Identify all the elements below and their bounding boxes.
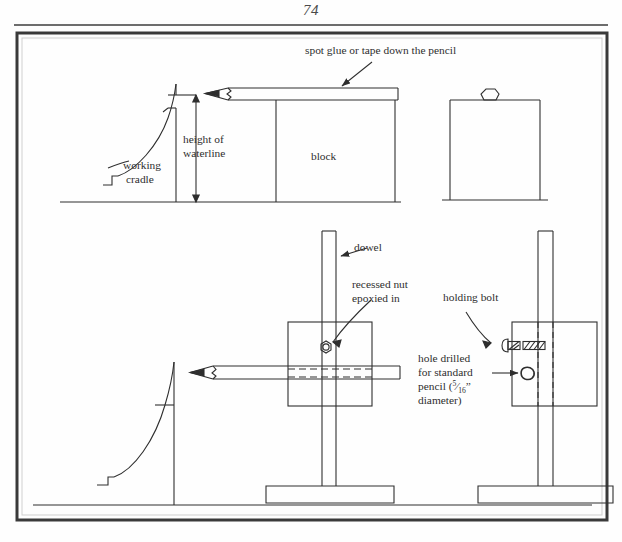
bottom-cradle-curve [114,362,174,477]
hole-drilled-prefix: pencil ( [418,380,453,393]
bottom-cradle-foot [97,477,114,485]
bottom-side-elevation [33,362,592,505]
label-hole-drilled-2: for standard [418,366,473,378]
label-height-of-waterline-1: height of [183,133,224,145]
right-assembly [466,231,613,503]
pencil-hole-circle [521,367,534,379]
figure-frame [17,33,607,520]
bolt-thread-hatch-2 [529,342,535,350]
label-holding-bolt: holding bolt [443,291,499,303]
figure-drawing: spot glue or tape down the pencil height… [0,0,622,542]
bolt-thread-hatch-3 [534,342,540,350]
front-hex-nut [481,89,499,100]
label-working-cradle-2: cradle [126,173,154,185]
figure-frame-inner [22,38,602,515]
label-hole-drilled-4: diameter) [418,394,462,407]
holding-bolt-leader [466,312,491,343]
cradle-foot-step [103,176,118,185]
bolt-thread-hatch-4 [539,342,545,350]
waterline-dim-arrow-top [193,95,199,102]
waterline-dim-arrow-bottom [193,195,199,202]
top-front-elevation [442,89,548,200]
right-block [512,322,597,406]
recessed-nut-leader [333,300,371,342]
label-spot-glue: spot glue or tape down the pencil [305,44,456,56]
pencil-sharpen-zigzag [227,88,231,100]
bottom-pencil-zigzag [212,366,216,379]
top-side-elevation [60,62,401,202]
center-nut-hole [323,344,329,350]
hole-drilled-suffix: ” [466,380,471,392]
cradle-notch [163,108,168,112]
book-page: 74 [0,0,622,542]
right-base-plate [478,486,613,503]
bolt-head [502,339,508,352]
center-base-plate [266,486,394,503]
label-dowel: dowel [354,241,382,253]
center-assembly [266,231,394,503]
label-recessed-nut-1: recessed nut [352,278,409,290]
center-block [288,322,372,406]
label-height-of-waterline-2: waterline [183,147,225,159]
bolt-thread-hatch-1 [524,342,530,350]
label-hole-drilled-3: pencil (5⁄16” [418,379,471,395]
label-working-cradle-1: working [123,159,161,171]
spot-glue-leader [342,62,372,86]
label-recessed-nut-2: epoxied in [352,292,400,304]
label-block: block [311,150,337,162]
label-hole-drilled-1: hole drilled [418,352,470,364]
